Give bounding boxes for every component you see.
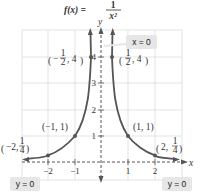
y-tick-label: 1 [92, 131, 97, 141]
svg-text:): ) [80, 56, 83, 67]
svg-text:(: ( [156, 144, 159, 155]
svg-text:x²: x² [108, 11, 118, 21]
svg-text:x = 0: x = 0 [132, 37, 151, 47]
svg-text:): ) [145, 56, 148, 67]
graph-canvas: f(x) = 1 x² x y −2 −1 1 2 [0, 0, 198, 196]
y-axis: y [97, 17, 104, 183]
svg-text:−2,: −2, [6, 142, 18, 152]
svg-text:2,: 2, [161, 142, 168, 152]
point-label-pos2: ( 2, 1 4 ) [156, 136, 182, 155]
x-tick-label: −1 [70, 166, 80, 176]
point-label-neg-half: ( − 1 2 , 4 ) [48, 48, 83, 67]
asymptote-label-y0-left: y = 0 [10, 177, 40, 191]
svg-text:): ) [26, 144, 29, 155]
svg-text:4: 4 [20, 145, 25, 155]
curve-right [112, 33, 175, 159]
x-tick-label: 2 [153, 166, 158, 176]
svg-text:f(x) =: f(x) = [64, 5, 86, 16]
svg-text:(: ( [1, 144, 4, 155]
svg-text:x: x [188, 158, 194, 168]
svg-text:(: ( [48, 56, 51, 67]
svg-text:, 4: , 4 [67, 54, 77, 64]
x-tick-label: −2 [43, 166, 53, 176]
chart-title: f(x) = 1 x² [64, 0, 121, 21]
svg-text:4: 4 [173, 145, 178, 155]
point-label-neg2: ( −2, 1 4 ) [1, 136, 29, 155]
point-label-pos-half: ( 1 2 , 4 ) [119, 48, 148, 67]
svg-text:(: ( [119, 56, 122, 67]
svg-text:y = 0: y = 0 [168, 179, 187, 189]
asymptote-label-y0-right: y = 0 [162, 177, 192, 191]
svg-text:−: − [53, 54, 58, 64]
point-label-neg1: (−1, 1) [42, 122, 68, 133]
svg-text:, 4: , 4 [132, 54, 142, 64]
svg-text:): ) [179, 144, 182, 155]
y-tick-label: 2 [92, 105, 97, 115]
point-label-pos1: (1, 1) [133, 122, 154, 133]
svg-text:y: y [97, 17, 103, 27]
svg-text:2: 2 [126, 57, 131, 67]
y-tick-label: 3 [92, 78, 97, 88]
svg-text:1: 1 [111, 0, 116, 10]
curve-left [27, 33, 91, 159]
x-tick-label: 1 [126, 166, 131, 176]
svg-text:y = 0: y = 0 [16, 179, 35, 189]
svg-text:2: 2 [61, 57, 66, 67]
